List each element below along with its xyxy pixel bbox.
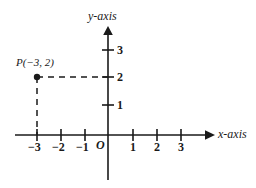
x-tick-label-1-text: 1 xyxy=(130,140,136,154)
y-tick-label-1: 1 xyxy=(117,99,123,111)
y-axis-label-text: y-axis xyxy=(88,9,117,23)
x-axis-arrowhead xyxy=(205,130,215,140)
plotted-point-p xyxy=(34,74,40,80)
y-tick-label-3: 3 xyxy=(117,44,123,56)
x-tick-label--3-text: −3 xyxy=(28,140,41,154)
x-axis-label: x-axis xyxy=(218,128,247,140)
x-tick-label-3: 3 xyxy=(178,141,184,153)
y-axis-label: y-axis xyxy=(88,10,117,22)
x-tick-label--2: −2 xyxy=(52,141,65,153)
x-tick-label--2-text: −2 xyxy=(52,140,65,154)
y-tick-label-1-text: 1 xyxy=(117,98,123,112)
y-tick-label-3-text: 3 xyxy=(117,43,123,57)
x-tick-label-2: 2 xyxy=(154,141,160,153)
coordinate-plane-figure: y-axis x-axis O −3 −2 −1 1 2 3 1 2 3 P(−… xyxy=(0,0,256,188)
x-tick-label--1-text: −1 xyxy=(76,140,89,154)
x-axis-label-text: x-axis xyxy=(218,127,247,141)
y-tick-label-2: 2 xyxy=(117,71,123,83)
origin-label-text: O xyxy=(96,138,105,152)
x-tick-label-3-text: 3 xyxy=(178,140,184,154)
origin-label: O xyxy=(96,139,105,151)
point-label-p: P(−3, 2) xyxy=(16,57,54,68)
point-label-p-text: P(−3, 2) xyxy=(16,56,54,68)
x-tick-label-1: 1 xyxy=(130,141,136,153)
x-tick-label-2-text: 2 xyxy=(154,140,160,154)
x-tick-label--1: −1 xyxy=(76,141,89,153)
y-tick-label-2-text: 2 xyxy=(117,70,123,84)
coordinate-axes-svg xyxy=(0,0,256,188)
y-axis-arrowhead xyxy=(103,26,113,35)
x-tick-label--3: −3 xyxy=(28,141,41,153)
